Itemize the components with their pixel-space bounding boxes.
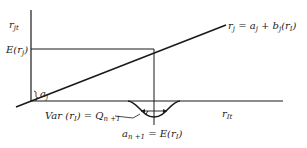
- expected-rj-label: E(rj): [5, 44, 28, 57]
- regression-equation-label: rj = aj + bj(rI): [228, 20, 297, 33]
- mean-label: an +1 = E(rI): [122, 128, 183, 141]
- x-axis-label: rIt: [222, 108, 233, 121]
- regression-diagram: rjt E(rj) aj rj = aj + bj(rI) rIt Var (r…: [0, 0, 307, 148]
- variance-label: Var (rI) = Qn +1: [45, 110, 121, 123]
- y-axis-label: rjt: [9, 19, 19, 32]
- intercept-label: aj: [40, 88, 49, 101]
